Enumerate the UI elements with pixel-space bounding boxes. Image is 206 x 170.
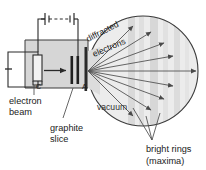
anode-letter-label: A (82, 82, 87, 91)
battery-symbol (41, 13, 78, 25)
leader-graphite-slice (63, 88, 73, 118)
electron-diffraction-figure: C A electron beam graphite slice diffrac… (0, 0, 206, 170)
diagram-canvas: C A electron beam graphite slice diffrac… (0, 0, 206, 170)
graphite-slice-label-line1: graphite (50, 123, 83, 133)
filament-element (33, 55, 42, 81)
graphite-slice-label-line2: slice (50, 134, 68, 144)
bright-rings-label: bright rings (146, 144, 192, 154)
electron-beam-label-line2: beam (9, 107, 32, 117)
cathode-assembly (33, 55, 42, 85)
electron-beam-label-line1: electron (9, 96, 42, 106)
cathode-letter-label: C (36, 82, 41, 91)
vacuum-label: vacuum (97, 102, 127, 112)
maxima-label: (maxima) (146, 156, 184, 166)
